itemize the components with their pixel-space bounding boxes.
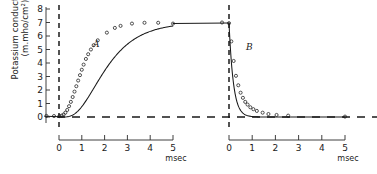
data-point (239, 91, 242, 94)
panel-b-label: B (245, 42, 253, 52)
data-point (105, 31, 108, 34)
data-point (80, 68, 83, 71)
data-point (73, 90, 76, 93)
panel-a-data-points (45, 21, 175, 117)
data-point (143, 21, 146, 24)
y-tick-label: 0 (37, 112, 43, 122)
data-point (84, 57, 87, 60)
data-point (244, 100, 247, 103)
data-point (78, 74, 81, 77)
y-axis-label-line2: (m.mho/cm²) (20, 0, 30, 88)
panel-a-x-tick-labels: 012345 (56, 143, 176, 153)
y-axis-label: Potassium conductance (m.mho/cm²) (0, 0, 40, 88)
data-point (130, 22, 133, 25)
data-point (87, 53, 90, 56)
panel-b-x-tick-marks (229, 135, 345, 140)
data-point (69, 100, 72, 103)
data-point (113, 26, 116, 29)
x-tick-label: 3 (125, 143, 131, 153)
data-point (232, 59, 235, 62)
panel-b-data-points (220, 21, 346, 118)
panel-a-x-axis-unit: msec (165, 154, 186, 163)
panel-a-fit-curve (45, 26, 173, 117)
x-tick-label: 1 (249, 143, 255, 153)
data-point (234, 74, 237, 77)
data-point (82, 63, 85, 66)
x-tick-label: 3 (296, 143, 302, 153)
x-tick-label: 1 (79, 143, 85, 153)
data-point (261, 111, 264, 114)
data-point (71, 95, 74, 98)
x-tick-label: 4 (147, 143, 153, 153)
y-axis-label-line1: Potassium conductance (10, 0, 20, 79)
data-point (252, 108, 255, 111)
data-point (249, 106, 252, 109)
panel-a-x-tick-marks (59, 135, 173, 140)
data-point (75, 85, 78, 88)
plot-canvas: 876543210 A B 012345 msec 012345 msec (0, 0, 377, 174)
x-tick-label: 5 (342, 143, 348, 153)
x-tick-label: 0 (56, 143, 62, 153)
panel-b-x-tick-labels: 012345 (226, 143, 348, 153)
data-point (275, 113, 278, 116)
y-tick-label: 1 (37, 99, 43, 109)
data-point (157, 21, 160, 24)
data-point (67, 105, 70, 108)
data-point (255, 109, 258, 112)
data-point (246, 103, 249, 106)
x-tick-label: 2 (273, 143, 279, 153)
x-tick-label: 4 (319, 143, 325, 153)
panel-a-label: A (92, 39, 100, 49)
figure-potassium-conductance: Potassium conductance (m.mho/cm²) 876543… (0, 0, 377, 174)
y-tick-marks (46, 9, 50, 117)
data-point (237, 84, 240, 87)
x-tick-label: 0 (226, 143, 232, 153)
data-point (119, 24, 122, 27)
x-tick-label: 5 (170, 143, 176, 153)
panel-bridge-plateau (173, 23, 229, 24)
data-point (241, 96, 244, 99)
data-point (89, 48, 92, 51)
x-tick-label: 2 (102, 143, 108, 153)
data-point (77, 79, 80, 82)
data-point (66, 108, 69, 111)
panel-b-x-axis-unit: msec (337, 154, 358, 163)
data-point (267, 112, 270, 115)
